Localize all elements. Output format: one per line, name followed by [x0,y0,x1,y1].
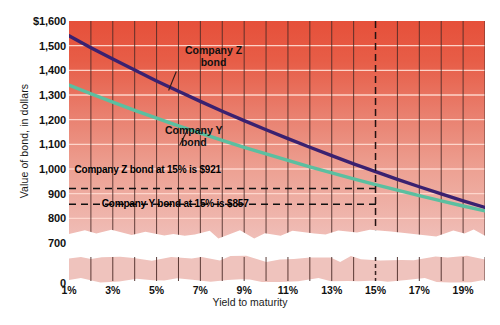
y-tick-label-1400: 1,400 [4,64,66,76]
series-label-company-z-line1: Company Z [185,44,242,56]
axis-break-bottom-strip [69,255,485,283]
refline-label-z-at-15: Company Z bond at 15% is $921 [74,164,220,175]
y-axis-tick-labels: $1,6001,5001,4001,3001,2001,1001,0009008… [0,0,66,325]
y-tick-label-1600: $1,600 [4,15,66,27]
y-tick-label-1000: 1,000 [4,163,66,175]
y-tick-label-700: 700 [4,237,66,249]
x-tick-label-7: 7% [193,284,208,296]
x-tick-label-3: 3% [105,284,120,296]
x-axis-title: Yield to maturity [0,296,500,308]
x-tick-label-5: 5% [149,284,164,296]
y-tick-label-0: 0 [4,277,66,289]
y-tick-label-1200: 1,200 [4,114,66,126]
series-label-company-y-line1: Company Y [165,124,223,136]
x-tick-label-11: 11% [278,284,298,296]
series-label-company-y-line2: bond [165,136,223,148]
x-tick-label-9: 9% [237,284,252,296]
y-tick-label-800: 800 [4,212,66,224]
chart-figure: Value of bond, in dollars $1,6001,5001,4… [0,0,500,325]
series-label-company-z: Company Zbond [185,44,242,68]
strip-svg [69,255,485,283]
series-label-company-z-line2: bond [185,56,242,68]
series-label-company-y: Company Ybond [165,124,223,148]
y-tick-label-900: 900 [4,188,66,200]
x-tick-label-1: 1% [61,284,76,296]
x-tick-label-17: 17% [409,284,430,296]
x-tick-label-15: 15% [365,284,386,296]
x-tick-label-13: 13% [321,284,342,296]
plot-svg [69,21,485,243]
y-tick-label-1500: 1,500 [4,40,66,52]
refline-label-y-at-15: Company Y bond at 15% is $857 [102,198,249,209]
plot-area [69,21,485,243]
x-tick-label-19: 19% [453,284,474,296]
y-tick-label-1300: 1,300 [4,89,66,101]
y-tick-label-1100: 1,100 [4,138,66,150]
